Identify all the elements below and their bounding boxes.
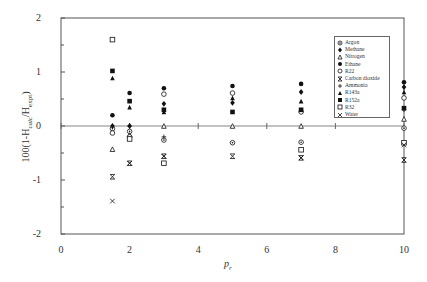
data-point-ammonia: [127, 124, 132, 129]
data-point-r32: [110, 37, 115, 42]
data-point-r32: [299, 147, 304, 152]
square-x-icon: [337, 76, 343, 82]
legend-item: R32: [337, 104, 387, 111]
data-point-r143a: [230, 96, 235, 101]
data-point-methane: [230, 100, 235, 106]
plus-icon: [337, 83, 343, 89]
data-point-r152a: [230, 110, 235, 115]
data-point-nitrogen: [110, 147, 115, 152]
data-point-argon: [230, 140, 235, 145]
circle-filled-icon: [337, 61, 343, 67]
data-point-r152a: [402, 106, 407, 111]
diamond-filled-icon: [337, 47, 343, 53]
data-point-ethane: [110, 113, 115, 118]
legend-label: Water: [345, 111, 358, 118]
legend-item: Water: [337, 111, 387, 118]
x-icon: [337, 112, 343, 118]
data-point-water: [162, 154, 167, 159]
square-open-marker-icon: [338, 105, 342, 109]
legend-label: Argon: [345, 39, 359, 46]
data-point-water: [299, 156, 304, 161]
legend-label: Ammonia: [345, 82, 367, 89]
data-point-water: [110, 199, 115, 204]
circle-dot-marker-icon: [338, 41, 342, 45]
legend-item: Nitrogen: [337, 53, 387, 60]
triangle-filled-marker-icon: [338, 91, 342, 95]
circle-open-icon: [337, 68, 343, 74]
data-point-r143a: [299, 99, 304, 104]
plus-marker-icon: [338, 84, 342, 88]
legend-label: R32: [345, 104, 354, 111]
triangle-filled-icon: [337, 90, 343, 96]
data-point-r152a: [162, 108, 167, 113]
data-point-ethane: [402, 80, 407, 85]
data-point-argon: [402, 126, 407, 131]
x-axis-label: pr: [224, 258, 232, 272]
legend-label: Methane: [345, 46, 365, 53]
square-open-icon: [337, 104, 343, 110]
data-point-nitrogen: [402, 117, 407, 122]
legend-label: Carbon dioxide: [345, 75, 380, 82]
y-tick-label: 0: [36, 120, 41, 131]
y-tick-label: 1: [36, 66, 41, 77]
y-tick-label: -2: [33, 228, 41, 239]
y-tick-label: 2: [36, 12, 41, 23]
data-point-ethane: [127, 91, 132, 96]
data-point-r152a: [127, 99, 132, 104]
data-point-carbon-dioxide: [110, 174, 115, 179]
legend-label: R143a: [345, 89, 360, 96]
triangle-open-icon: [337, 54, 343, 60]
legend: ArgonMethaneNitrogenEthaneR22Carbon diox…: [334, 36, 390, 118]
square-x-marker-icon: [338, 77, 342, 81]
data-point-argon: [299, 140, 304, 145]
legend-label: Nitrogen: [345, 53, 365, 60]
data-point-r22: [402, 96, 407, 101]
legend-label: R152a: [345, 97, 360, 104]
x-tick-label: 10: [399, 244, 409, 255]
x-tick-label: 4: [196, 244, 201, 255]
data-point-methane: [402, 84, 407, 90]
data-point-ethane: [230, 84, 235, 89]
data-point-r152a: [110, 69, 115, 74]
data-point-r32: [127, 137, 132, 142]
data-point-r32: [162, 161, 167, 166]
data-point-ethane: [299, 82, 304, 87]
data-point-r152a: [299, 108, 304, 113]
square-filled-icon: [337, 97, 343, 103]
data-point-r22: [230, 91, 235, 96]
legend-item: R152a: [337, 97, 387, 104]
data-point-r143a: [402, 90, 407, 95]
data-point-carbon-dioxide: [230, 154, 235, 159]
x-tick-label: 2: [127, 244, 132, 255]
data-point-r22: [162, 92, 167, 97]
legend-item: Ethane: [337, 61, 387, 68]
legend-item: Methane: [337, 46, 387, 53]
legend-label: R22: [345, 68, 354, 75]
y-axis-label: 100(1-Hcalc/Hexpt): [20, 72, 34, 182]
diamond-filled-marker-icon: [338, 47, 342, 52]
x-marker-icon: [338, 113, 342, 117]
circle-dot-icon: [337, 40, 343, 46]
data-point-water: [127, 161, 132, 166]
legend-label: Ethane: [345, 61, 361, 68]
data-point-r22: [110, 131, 115, 136]
legend-item: Carbon dioxide: [337, 75, 387, 82]
circle-open-marker-icon: [338, 69, 342, 73]
square-filled-marker-icon: [338, 98, 342, 102]
legend-item: R22: [337, 68, 387, 75]
x-tick-label: 6: [264, 244, 269, 255]
data-point-ethane: [162, 86, 167, 91]
data-point-methane: [299, 89, 304, 95]
data-point-methane: [162, 101, 167, 107]
x-tick-label: 8: [333, 244, 338, 255]
circle-filled-marker-icon: [338, 62, 342, 66]
legend-item: Ammonia: [337, 82, 387, 89]
x-tick-label: 0: [59, 244, 64, 255]
triangle-open-marker-icon: [338, 55, 342, 59]
data-point-r143a: [127, 105, 132, 110]
legend-item: R143a: [337, 89, 387, 96]
legend-item: Argon: [337, 39, 387, 46]
data-point-r143a: [110, 76, 115, 81]
